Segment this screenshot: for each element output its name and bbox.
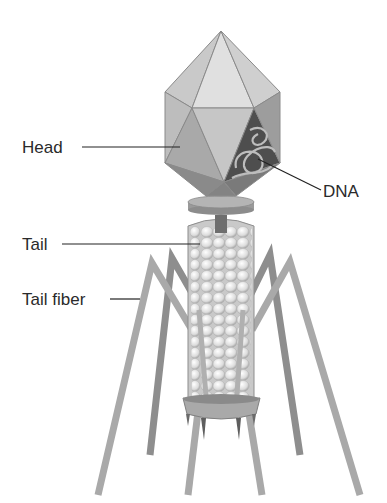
sheath-bead — [201, 293, 213, 304]
bacteriophage-diagram: Head DNA Tail Tail fiber — [0, 0, 387, 503]
sheath-bead — [213, 359, 225, 370]
sheath-bead — [201, 315, 213, 326]
sheath-bead — [237, 260, 249, 271]
sheath-bead — [250, 238, 260, 249]
sheath-bead — [201, 282, 213, 293]
sheath-bead — [225, 238, 237, 249]
sheath-bead — [250, 260, 260, 271]
sheath-bead — [201, 271, 213, 282]
sheath-bead — [213, 337, 225, 348]
label-dna: DNA — [323, 183, 359, 200]
sheath-bead — [213, 326, 225, 337]
sheath-bead — [225, 315, 237, 326]
sheath-bead — [250, 227, 260, 238]
sheath-bead — [213, 282, 225, 293]
sheath-bead — [201, 260, 213, 271]
sheath-bead — [237, 238, 249, 249]
phage-illustration — [0, 0, 387, 503]
dna-leader-line — [258, 159, 321, 190]
sheath-bead — [190, 293, 200, 304]
sheath-bead — [190, 260, 200, 271]
sheath-bead — [250, 249, 260, 260]
label-head: Head — [22, 139, 63, 156]
sheath-bead — [190, 271, 200, 282]
sheath-bead — [190, 238, 200, 249]
sheath-bead — [201, 304, 213, 315]
sheath-bead — [213, 271, 225, 282]
sheath-bead — [190, 282, 200, 293]
sheath-bead — [213, 370, 225, 381]
sheath-bead — [213, 348, 225, 359]
sheath-bead — [213, 381, 225, 392]
sheath-bead — [225, 271, 237, 282]
sheath-bead — [225, 337, 237, 348]
sheath-bead — [237, 249, 249, 260]
sheath-bead — [190, 337, 200, 348]
sheath-bead — [213, 238, 225, 249]
sheath-bead — [225, 370, 237, 381]
sheath-bead — [225, 249, 237, 260]
sheath-bead — [225, 304, 237, 315]
sheath-bead — [190, 249, 200, 260]
label-tail: Tail — [22, 236, 48, 253]
sheath-bead — [201, 249, 213, 260]
sheath-bead — [201, 238, 213, 249]
label-tail-fiber: Tail fiber — [22, 291, 85, 308]
sheath-bead — [237, 293, 249, 304]
sheath-bead — [213, 304, 225, 315]
sheath-bead — [225, 326, 237, 337]
sheath-bead — [190, 227, 200, 238]
sheath-bead — [225, 293, 237, 304]
sheath-bead — [237, 282, 249, 293]
sheath-bead — [213, 315, 225, 326]
sheath-bead — [225, 282, 237, 293]
sheath-bead — [213, 249, 225, 260]
sheath-bead — [225, 260, 237, 271]
sheath-bead — [225, 359, 237, 370]
sheath-bead — [213, 293, 225, 304]
sheath-bead — [225, 348, 237, 359]
collar — [188, 196, 254, 215]
sheath-bead — [213, 260, 225, 271]
sheath-bead — [201, 227, 213, 238]
sheath-bead — [237, 227, 249, 238]
sheath-bead — [237, 271, 249, 282]
